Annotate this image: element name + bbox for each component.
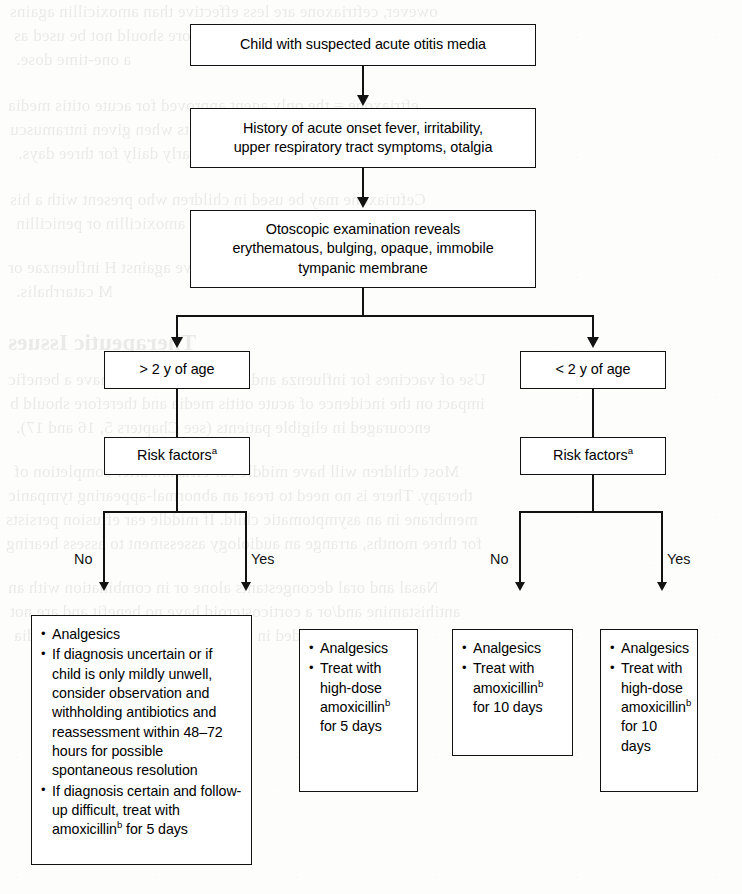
node-age-over-2[interactable]: > 2 y of age [104,351,250,389]
arrowhead-to-history [357,95,369,106]
outcome-box-under2-no-risk[interactable]: AnalgesicsTreat with amoxicillinb for 10… [452,629,573,756]
edge-label-right-no: No [490,552,508,566]
footnote-marker-b: b [385,697,390,708]
footnote-marker-b: b [686,697,691,708]
arrowhead-right-yes [657,582,667,591]
connector-age-split-bus [176,315,594,317]
node-history-line: upper respiratory tract symptoms, otalgi… [234,138,493,157]
outcome-bullet-list: AnalgesicsTreat with amoxicillinb for 10… [462,639,563,717]
outcome-bullet: Treat with high-dose amoxicillinb for 5 … [309,659,408,736]
node-exam-line: Otoscopic examination reveals [232,220,493,239]
node-otoscopic-exam[interactable]: Otoscopic examination reveals erythemato… [190,210,536,288]
outcome-bullet: If diagnosis certain and follow-up diffi… [41,782,242,840]
connector-risk-left-down [176,475,178,512]
node-exam-line: erythematous, bulging, opaque, immobile [232,239,493,258]
connector-risk-left-yes-drop [245,511,247,585]
connector-exam-down [362,288,364,316]
arrowhead-right-no [515,582,525,591]
node-age-under-2[interactable]: < 2 y of age [520,351,666,389]
outcome-bullet: Analgesics [462,639,563,658]
outcome-bullet-list: AnalgesicsTreat with high-dose amoxicill… [610,639,688,756]
connector-risk-right-yes-drop [661,511,663,585]
connector-risk-right-no-drop [519,511,521,585]
connector-risk-right-bus [519,511,663,513]
outcome-box-over2-no-risk[interactable]: AnalgesicsIf diagnosis uncertain or if c… [31,615,252,865]
edge-label-right-yes: Yes [667,552,690,566]
arrowhead-to-exam [357,197,369,208]
arrowhead-left-yes [241,582,251,591]
node-history[interactable]: History of acute onset fever, irritabili… [190,108,536,168]
outcome-bullet: Treat with amoxicillinb for 10 days [462,659,563,717]
arrowhead-left-no [99,582,109,591]
edge-label-left-no: No [74,552,92,566]
footnote-marker-b: b [117,819,122,830]
outcome-bullet-list: AnalgesicsIf diagnosis uncertain or if c… [41,625,242,839]
footnote-marker-a: a [628,446,633,457]
outcome-bullet-list: AnalgesicsTreat with high-dose amoxicill… [309,639,408,737]
connector-risk-left-no-drop [103,511,105,585]
connector-risk-left-bus [103,511,247,513]
node-history-line: History of acute onset fever, irritabili… [234,119,493,138]
arrowhead-to-age-under-2 [587,337,599,348]
outcome-bullet: Analgesics [41,625,242,644]
connector-start-to-history [362,66,364,98]
node-risk-factors-left-label: Risk factorsa [137,446,217,465]
outcome-bullet: Analgesics [610,639,688,658]
node-risk-factors-right[interactable]: Risk factorsa [520,437,666,475]
node-start[interactable]: Child with suspected acute otitis media [190,24,536,66]
node-risk-factors-right-label: Risk factorsa [553,446,633,465]
arrowhead-to-age-over-2 [171,337,183,348]
connector-age-over2-to-risk [176,389,178,437]
node-age-under-2-label: < 2 y of age [555,360,630,379]
connector-risk-right-down [592,475,594,512]
node-risk-factors-left[interactable]: Risk factorsa [104,437,250,475]
node-start-line: Child with suspected acute otitis media [240,35,486,54]
flowchart-canvas: Child with suspected acute otitis media … [0,0,742,894]
node-age-over-2-label: > 2 y of age [139,360,214,379]
outcome-bullet: If diagnosis uncertain or if child is on… [41,645,242,780]
edge-label-left-yes: Yes [251,552,274,566]
outcome-box-under2-yes-risk[interactable]: AnalgesicsTreat with high-dose amoxicill… [600,629,698,792]
connector-history-to-exam [362,168,364,200]
outcome-bullet: Treat with high-dose amoxicillinb for 10… [610,659,688,756]
outcome-box-over2-yes-risk[interactable]: AnalgesicsTreat with high-dose amoxicill… [299,629,418,792]
footnote-marker-a: a [212,446,217,457]
footnote-marker-b: b [538,678,543,689]
node-exam-line: tympanic membrane [232,259,493,278]
connector-age-under2-to-risk [592,389,594,437]
outcome-bullet: Analgesics [309,639,408,658]
